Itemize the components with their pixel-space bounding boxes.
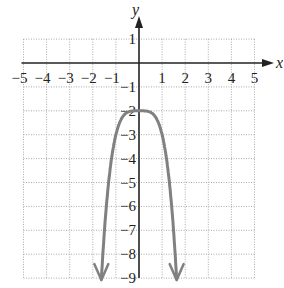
- axes: xy: [22, 1, 284, 278]
- y-tick-label: −8: [120, 246, 136, 262]
- y-tick-label: −4: [120, 151, 136, 167]
- y-tick-label: −6: [120, 198, 136, 214]
- x-tick-label: −4: [35, 70, 51, 86]
- y-tick-label: −9: [120, 270, 136, 286]
- x-tick-label: −1: [104, 70, 120, 86]
- y-axis-label: y: [130, 1, 140, 19]
- function-graph: xy −5−4−3−2−1123451−1−2−3−4−5−6−7−8−9: [0, 0, 283, 288]
- x-axis-label: x: [275, 54, 283, 71]
- x-tick-label: −3: [58, 70, 74, 86]
- y-tick-label: −5: [120, 175, 136, 191]
- x-tick-label: 3: [205, 70, 213, 86]
- y-tick-label: −1: [120, 79, 136, 95]
- x-tick-label: −2: [81, 70, 97, 86]
- x-tick-label: 2: [181, 70, 189, 86]
- x-tick-label: 5: [251, 70, 259, 86]
- x-tick-label: 1: [158, 70, 166, 86]
- x-tick-label: 4: [228, 70, 236, 86]
- x-axis-arrow-icon: [262, 59, 274, 67]
- y-tick-label: 1: [129, 31, 137, 47]
- y-tick-label: −7: [120, 222, 136, 238]
- x-tick-label: −5: [12, 70, 28, 86]
- y-tick-label: −3: [120, 127, 136, 143]
